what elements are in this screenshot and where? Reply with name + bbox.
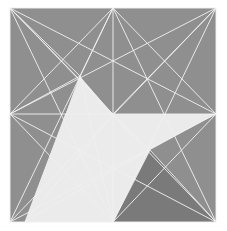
artwork-canvas <box>0 0 227 231</box>
geometric-composition-svg <box>0 0 227 231</box>
